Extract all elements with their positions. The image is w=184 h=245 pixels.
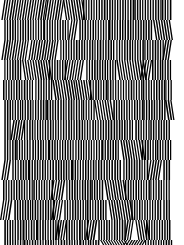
stripe-pattern (0, 0, 184, 245)
